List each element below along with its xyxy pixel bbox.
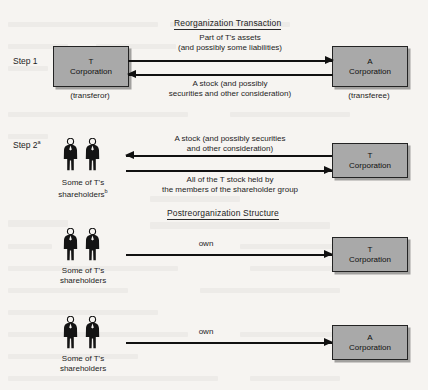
step-2-text: Step 2 [13,140,38,150]
box-word-corporation: Corporation [70,67,112,77]
label-step1-a-stock: A stock (and possibly securities and oth… [135,79,325,100]
arrow-shaft [128,60,333,62]
label-step2-t-stock-line1: All of the T stock held by [187,175,274,184]
person-silhouette-icon [84,138,101,171]
box-t-corporation-step1: T Corporation [53,46,129,87]
label-step1-a-stock-line1: A stock (and possibly [192,79,267,88]
annotation-transferee: (transferee) [332,91,406,100]
label-own-a: own [186,327,226,337]
box-word-corporation: Corporation [349,67,391,77]
arrowhead-left [125,151,134,159]
caption-shareholders-step2: Some of T's shareholdersb [37,178,129,200]
caption-shareholders-post-a: Some of T's shareholders [37,354,129,374]
box-t-corporation-step2: T Corporation [332,143,408,178]
people-group-shareholders-post-t [62,228,101,261]
step-2-label: Step 2a [13,139,41,150]
people-group-shareholders-post-a [62,316,101,349]
caption-line1: Some of T's [62,354,104,363]
box-a-corporation-post: A Corporation [332,325,408,360]
box-word-corporation: Corporation [349,343,391,353]
arrowhead-left [127,70,136,78]
step-1-text: Step 1 [13,56,38,66]
box-letter-t: T [368,151,373,161]
box-letter-t: T [89,57,94,67]
caption-footnote-marker: b [105,188,108,194]
arrow-shaft [128,74,333,76]
arrow-shaft [126,155,332,157]
arrow-shaft [126,170,332,172]
person-silhouette-icon [84,228,101,261]
section-title-postreorganization-structure: Postreorganization Structure [167,208,279,220]
label-step1-assets-line1: Part of T's assets [199,33,260,42]
label-own-t: own [186,239,226,249]
step-2-footnote-marker: a [38,139,41,145]
section-title-reorganization-transaction: Reorganization Transaction [174,18,281,30]
people-group-shareholders-step2 [62,138,101,171]
box-word-corporation: Corporation [349,255,391,265]
label-step2-a-stock-line2: and other consideration) [187,144,273,153]
box-letter-t: T [368,245,373,255]
caption-line1: Some of T's [62,178,104,187]
box-word-corporation: Corporation [349,161,391,171]
caption-line1: Some of T's [62,266,104,275]
label-step2-t-stock: All of the T stock held by the members o… [130,175,330,196]
label-step2-t-stock-line2: the members of the shareholder group [162,185,298,194]
person-silhouette-icon [84,316,101,349]
diagram-canvas: Reorganization Transaction Step 1 T Corp… [0,0,428,390]
arrowhead-right [324,166,333,174]
box-letter-a: A [367,57,372,67]
label-step1-a-stock-line2: securities and other consideration) [169,89,291,98]
person-silhouette-icon [62,228,79,261]
person-silhouette-icon [62,316,79,349]
box-a-corporation-step1: A Corporation [332,46,408,87]
arrow-shaft [126,254,332,256]
arrowhead-right [325,56,334,64]
person-silhouette-icon [62,138,79,171]
caption-shareholders-post-t: Some of T's shareholders [37,266,129,286]
label-step1-assets-line2: (and possibly some liabilities) [178,43,282,52]
label-step2-a-stock: A stock (and possibly securities and oth… [130,134,330,155]
step-1-label: Step 1 [13,56,38,66]
label-step2-a-stock-line1: A stock (and possibly securities [174,134,285,143]
caption-line2: shareholders [60,364,106,373]
arrow-shaft [126,342,332,344]
box-t-corporation-post: T Corporation [332,237,408,272]
caption-line2: shareholders [60,276,106,285]
annotation-transferor: (transferor) [53,91,127,100]
label-step1-assets: Part of T's assets (and possibly some li… [135,33,325,54]
caption-line2: shareholders [58,190,104,199]
box-letter-a: A [367,333,372,343]
